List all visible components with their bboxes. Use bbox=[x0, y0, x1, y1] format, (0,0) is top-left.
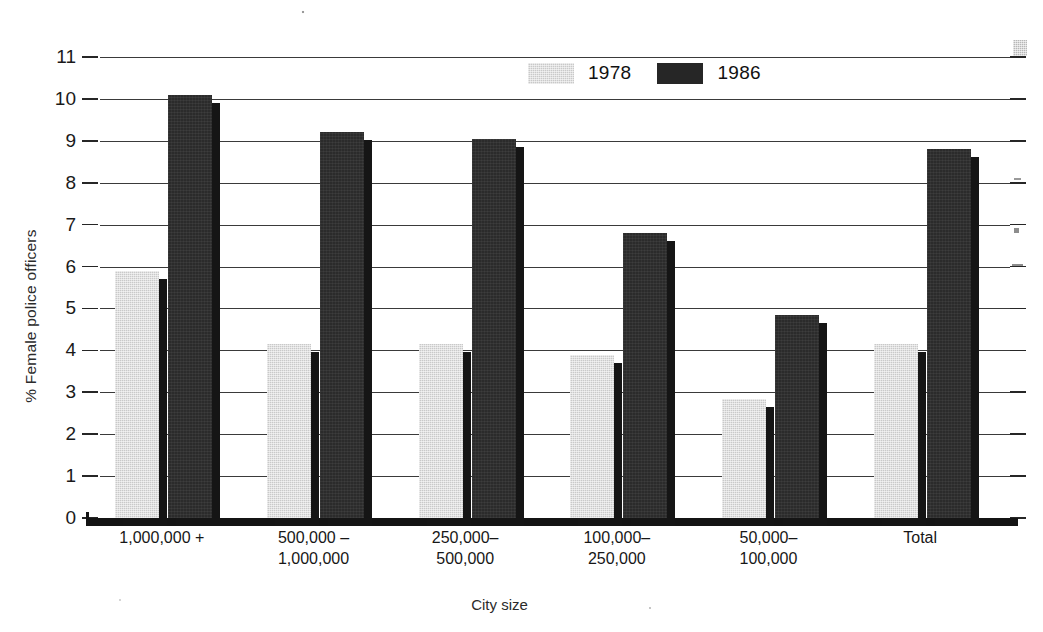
category-label: 250,000– 500,000 bbox=[389, 527, 541, 569]
legend-item-1986[interactable]: 1986 bbox=[657, 62, 760, 84]
category-label: 1,000,000 + bbox=[86, 527, 238, 548]
bar-group bbox=[570, 57, 667, 518]
y-tick-label-8: 8 bbox=[46, 173, 76, 192]
bar-1986[interactable] bbox=[320, 132, 364, 518]
x-axis-title: City size bbox=[0, 596, 1043, 613]
chart-legend: 19781986 bbox=[528, 62, 761, 84]
bar-1978[interactable] bbox=[722, 399, 766, 518]
category-label: 100,000– 250,000 bbox=[541, 527, 693, 569]
legend-label-1978: 1978 bbox=[588, 62, 631, 84]
bar-rect-1986 bbox=[472, 139, 516, 518]
y-tick-8 bbox=[82, 182, 98, 184]
bar-rect-1978 bbox=[570, 355, 614, 518]
x-axis-title-text: City size bbox=[471, 596, 528, 613]
bar-1978[interactable] bbox=[874, 344, 918, 518]
bar-group bbox=[419, 57, 516, 518]
y-tick-right-8 bbox=[1010, 182, 1026, 184]
y-tick-label-3: 3 bbox=[46, 382, 76, 401]
bar-1978[interactable] bbox=[115, 271, 159, 518]
y-tick-label-1: 1 bbox=[46, 466, 76, 485]
y-tick-3 bbox=[82, 391, 98, 393]
y-tick-11 bbox=[82, 56, 98, 58]
y-tick-9 bbox=[82, 140, 98, 142]
bar-rect-1978 bbox=[419, 344, 463, 518]
bar-1986[interactable] bbox=[472, 139, 516, 518]
y-tick-label-5: 5 bbox=[46, 298, 76, 317]
bar-group bbox=[115, 57, 212, 518]
page-margin-tick-2 bbox=[1014, 228, 1019, 233]
bar-group bbox=[267, 57, 364, 518]
bar-group bbox=[874, 57, 971, 518]
bar-rect-1978 bbox=[874, 344, 918, 518]
page-margin-tick-3 bbox=[1012, 264, 1023, 266]
y-tick-5 bbox=[82, 308, 98, 310]
legend-label-1986: 1986 bbox=[717, 62, 760, 84]
y-tick-label-2: 2 bbox=[46, 424, 76, 443]
bar-rect-1986 bbox=[168, 95, 212, 518]
y-tick-right-10 bbox=[1010, 98, 1026, 100]
y-tick-6 bbox=[82, 266, 98, 268]
y-tick-10 bbox=[82, 98, 98, 100]
bar-1978[interactable] bbox=[419, 344, 463, 518]
bar-rect-1978 bbox=[267, 344, 311, 518]
y-tick-1 bbox=[82, 475, 98, 477]
y-tick-label-7: 7 bbox=[46, 215, 76, 234]
y-tick-right-2 bbox=[1010, 433, 1026, 435]
page-margin-artifact bbox=[1013, 40, 1027, 56]
bar-chart-figure: % Female police officers 01234567891011 … bbox=[0, 0, 1043, 632]
x-axis-baseline bbox=[86, 518, 1018, 526]
bar-1978[interactable] bbox=[570, 355, 614, 518]
y-tick-4 bbox=[82, 350, 98, 352]
y-tick-right-3 bbox=[1010, 391, 1026, 393]
category-label: 500,000 – 1,000,000 bbox=[238, 527, 390, 569]
y-tick-right-4 bbox=[1010, 350, 1026, 352]
page-margin-tick-1 bbox=[1014, 178, 1021, 180]
bar-rect-1986 bbox=[775, 315, 819, 518]
x-axis-origin-cap bbox=[86, 512, 89, 526]
bar-1986[interactable] bbox=[927, 149, 971, 518]
legend-swatch-1978 bbox=[528, 63, 574, 84]
bar-1978[interactable] bbox=[267, 344, 311, 518]
bar-1986[interactable] bbox=[623, 233, 667, 518]
y-tick-label-10: 10 bbox=[46, 89, 76, 108]
y-axis-title: % Female police officers bbox=[22, 0, 40, 196]
y-tick-right-9 bbox=[1010, 140, 1026, 142]
bar-1986[interactable] bbox=[775, 315, 819, 518]
bar-rect-1978 bbox=[722, 399, 766, 518]
x-axis-category-labels: 1,000,000 +500,000 – 1,000,000250,000– 5… bbox=[100, 527, 1010, 587]
y-tick-label-0: 0 bbox=[46, 508, 76, 527]
plot-area: 01234567891011 bbox=[100, 57, 1010, 518]
bar-rect-1986 bbox=[623, 233, 667, 518]
y-tick-right-7 bbox=[1010, 224, 1026, 226]
bar-group bbox=[722, 57, 819, 518]
y-tick-7 bbox=[82, 224, 98, 226]
bar-1986[interactable] bbox=[168, 95, 212, 518]
category-label: Total bbox=[844, 527, 996, 548]
y-axis-title-text: % Female police officers bbox=[22, 196, 40, 436]
y-tick-right-11 bbox=[1010, 56, 1026, 58]
bar-rect-1986 bbox=[927, 149, 971, 518]
bar-rect-1978 bbox=[115, 271, 159, 518]
y-tick-label-11: 11 bbox=[46, 47, 76, 66]
y-tick-right-5 bbox=[1010, 308, 1026, 310]
bar-rect-1986 bbox=[320, 132, 364, 518]
y-tick-2 bbox=[82, 433, 98, 435]
y-tick-label-4: 4 bbox=[46, 340, 76, 359]
legend-item-1978[interactable]: 1978 bbox=[528, 62, 631, 84]
legend-swatch-1986 bbox=[657, 63, 703, 84]
y-tick-right-1 bbox=[1010, 475, 1026, 477]
y-tick-label-6: 6 bbox=[46, 257, 76, 276]
category-label: 50,000– 100,000 bbox=[693, 527, 845, 569]
y-tick-label-9: 9 bbox=[46, 131, 76, 150]
